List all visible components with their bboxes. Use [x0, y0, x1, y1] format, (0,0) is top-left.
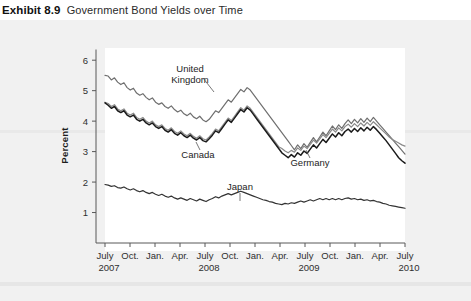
series-annotation: Canada: [181, 149, 215, 160]
exhibit-figure: Exhibit 8.9 Government Bond Yields over …: [0, 0, 471, 301]
y-tick-label: 3: [83, 146, 88, 157]
x-year-label: 2009: [298, 262, 319, 273]
x-tick-label: July: [97, 250, 114, 261]
x-tick-label: July: [197, 250, 214, 261]
x-year-label: 2010: [398, 262, 419, 273]
x-tick-label: July: [297, 250, 314, 261]
y-tick-label: 5: [83, 85, 88, 96]
x-year-label: 2007: [98, 262, 119, 273]
series-annotation: Japan: [227, 181, 253, 192]
x-tick-label: Oct.: [221, 250, 238, 261]
x-tick-label: Oct.: [121, 250, 138, 261]
y-axis-label: Percent: [59, 127, 70, 164]
series-annotation: Germany: [290, 157, 329, 168]
series-annotation: UnitedKingdom: [171, 63, 209, 85]
x-tick-label: Jan.: [146, 250, 164, 261]
x-tick-label: Jan.: [346, 250, 364, 261]
series-line-canada: [105, 103, 405, 163]
y-tick-label: 2: [83, 177, 88, 188]
x-year-label: 2008: [198, 262, 219, 273]
y-tick-label: 1: [83, 207, 88, 218]
x-axis: JulyOct.Jan.Apr.JulyOct.Jan.Apr.JulyOct.…: [96, 243, 420, 273]
x-tick-label: Apr.: [372, 250, 389, 261]
line-chart: 123456Percent JulyOct.Jan.Apr.JulyOct.Ja…: [0, 0, 471, 301]
x-tick-label: Apr.: [272, 250, 289, 261]
y-axis: 123456Percent: [59, 50, 96, 243]
series-line-germany: [105, 102, 405, 153]
x-tick-label: Oct.: [321, 250, 338, 261]
y-tick-label: 6: [83, 55, 88, 66]
series-annotations: UnitedKingdomCanadaGermanyJapan: [171, 63, 330, 201]
x-tick-label: Apr.: [172, 250, 189, 261]
y-tick-label: 4: [83, 116, 88, 127]
series-lines: [105, 75, 405, 208]
series-line-japan: [105, 185, 405, 209]
x-tick-label: July: [397, 250, 414, 261]
x-tick-label: Jan.: [246, 250, 264, 261]
